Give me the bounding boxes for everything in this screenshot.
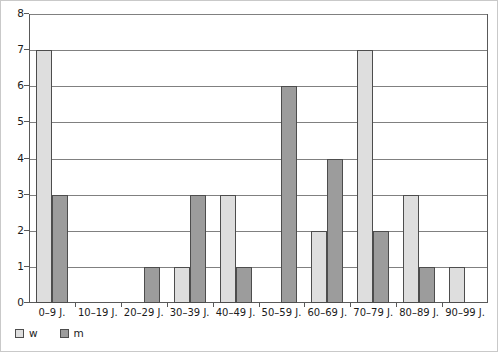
bars-layer [29, 14, 488, 303]
legend-entry-m[interactable]: m [60, 328, 84, 339]
x-axis-tick-mark [167, 303, 168, 307]
y-axis-tick-label: 6 [4, 80, 24, 91]
y-axis-tick-label: 7 [4, 44, 24, 55]
x-axis-tick-mark [396, 303, 397, 307]
y-axis-tick-label: 2 [4, 225, 24, 236]
x-axis-tick-mark [75, 303, 76, 307]
bar-m-3 [190, 195, 206, 303]
x-axis-tick-label: 80–89 J. [396, 307, 442, 318]
x-axis-tick-mark [442, 303, 443, 307]
x-axis-tick-label: 90–99 J. [442, 307, 488, 318]
y-axis-tick-label: 1 [4, 261, 24, 272]
bar-w-3 [174, 267, 190, 303]
x-axis-tick-label: 60–69 J. [304, 307, 350, 318]
legend-label: m [74, 328, 84, 339]
y-axis-tick-label: 5 [4, 116, 24, 127]
y-axis-tick-label: 3 [4, 189, 24, 200]
bar-m-6 [327, 159, 343, 304]
legend-swatch-m [60, 329, 69, 338]
x-axis-tick-label: 0–9 J. [29, 307, 75, 318]
y-axis-tick-label: 4 [4, 153, 24, 164]
legend-swatch-w [15, 329, 24, 338]
bar-m-8 [419, 267, 435, 303]
bar-w-7 [357, 50, 373, 303]
bar-w-6 [311, 231, 327, 303]
bar-w-8 [403, 195, 419, 303]
bar-m-0 [52, 195, 68, 303]
bar-w-9 [449, 267, 465, 303]
x-axis-tick-label: 40–49 J. [213, 307, 259, 318]
x-axis: 0–9 J.10–19 J.20–29 J.30–39 J.40–49 J.50… [29, 303, 488, 325]
bar-m-5 [281, 86, 297, 303]
x-axis-tick-mark [121, 303, 122, 307]
bar-m-2 [144, 267, 160, 303]
x-axis-tick-mark [213, 303, 214, 307]
bar-m-4 [236, 267, 252, 303]
x-axis-tick-label: 30–39 J. [167, 307, 213, 318]
x-axis-tick-mark [350, 303, 351, 307]
x-axis-tick-label: 10–19 J. [75, 307, 121, 318]
y-axis-tick-label: 0 [4, 297, 24, 308]
bar-w-0 [36, 50, 52, 303]
x-axis-tick-label: 50–59 J. [259, 307, 305, 318]
chart-legend: wm [15, 328, 84, 339]
chart-figure: 012345678 0–9 J.10–19 J.20–29 J.30–39 J.… [0, 0, 498, 352]
legend-label: w [29, 328, 38, 339]
x-axis-tick-mark [259, 303, 260, 307]
x-axis-tick-mark [304, 303, 305, 307]
x-axis-tick-label: 20–29 J. [121, 307, 167, 318]
legend-entry-w[interactable]: w [15, 328, 38, 339]
bar-m-7 [373, 231, 389, 303]
x-axis-tick-label: 70–79 J. [350, 307, 396, 318]
y-axis-tick-label: 8 [4, 8, 24, 19]
bar-w-4 [220, 195, 236, 303]
